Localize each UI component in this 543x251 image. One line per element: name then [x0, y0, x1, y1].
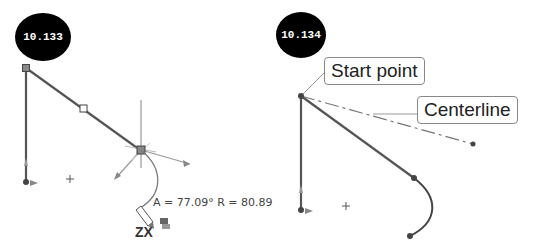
start-point-leader	[301, 72, 325, 96]
arc-start-point[interactable]	[411, 175, 417, 181]
angle-radius-readout: A = 77.09° R = 80.89	[153, 196, 273, 209]
start-point[interactable]	[298, 93, 304, 99]
midpoint-handle[interactable]	[80, 105, 87, 112]
sketch-plane-icon	[160, 218, 170, 229]
slanted-line	[301, 96, 414, 178]
sketch-10-133	[0, 0, 270, 251]
tangent-arc	[410, 178, 432, 236]
endpoint-handle[interactable]	[23, 65, 30, 72]
centerline-callout: Centerline	[417, 96, 518, 124]
sketch-10-134	[270, 0, 543, 251]
cursor-plane-label: ZX	[135, 224, 153, 240]
figure-10-134: 10.134 Start point Centerline	[270, 0, 543, 251]
start-point-callout: Start point	[324, 57, 425, 85]
figure-10-133: 10.133	[0, 0, 270, 251]
arc-end-point[interactable]	[407, 233, 413, 239]
centerline-endpoint[interactable]	[471, 142, 476, 147]
